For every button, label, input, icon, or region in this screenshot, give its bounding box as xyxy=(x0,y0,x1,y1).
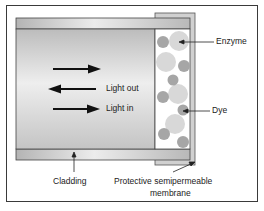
enzyme-label: Enzyme xyxy=(216,37,247,46)
membrane-label-line1: Protective semipermeable xyxy=(114,177,212,186)
membrane-label-line2: membrane xyxy=(150,189,191,198)
cladding-label: Cladding xyxy=(53,177,87,186)
light-in-label: Light in xyxy=(106,104,133,113)
cladding-top xyxy=(16,18,190,29)
cladding-bottom xyxy=(16,149,190,160)
light-out-label: Light out xyxy=(106,84,139,93)
dye-label: Dye xyxy=(212,106,227,115)
